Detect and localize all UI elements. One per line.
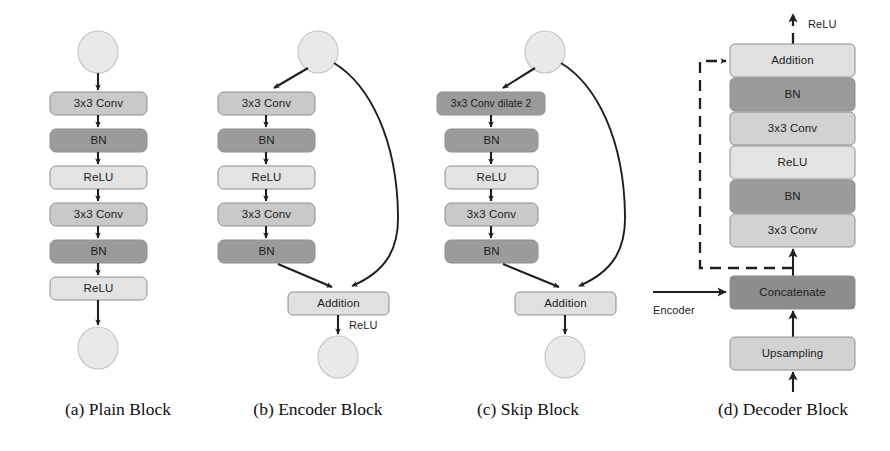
- encoder-node-bn1-label: BN: [258, 134, 274, 146]
- decoder-node-relu-label: ReLU: [778, 156, 808, 168]
- plain-output-circle: [78, 327, 118, 369]
- skip-node-conv2-label: 3x3 Conv: [467, 208, 517, 220]
- encoder-node-conv1-label: 3x3 Conv: [242, 97, 292, 109]
- decoder-encoder-input-label: Encoder: [653, 304, 695, 316]
- skip-node-bn2-label: BN: [483, 245, 499, 257]
- plain-node-bn1-label: BN: [90, 134, 106, 146]
- block-diagram-figure: 3x3 Conv BN ReLU 3x3 Conv BN ReLU (a) Pl…: [0, 0, 890, 451]
- encoder-output-circle: [318, 336, 358, 378]
- caption-plain-block: (a) Plain Block: [65, 399, 171, 419]
- skip-input-circle: [525, 31, 565, 73]
- plain-node-relu1-label: ReLU: [84, 171, 114, 183]
- decoder-output-relu-label: ReLU: [808, 18, 837, 30]
- skip-node-addition-label: Addition: [544, 297, 586, 309]
- decoder-node-bn2-label: BN: [784, 190, 800, 202]
- plain-node-bn2-label: BN: [90, 245, 106, 257]
- encoder-node-addition-label: Addition: [317, 297, 359, 309]
- encoder-node-conv2-label: 3x3 Conv: [242, 208, 292, 220]
- skip-node-dilated-conv-label: 3x3 Conv dilate 2: [451, 98, 532, 109]
- caption-skip-block: (c) Skip Block: [477, 399, 579, 419]
- decoder-node-upsampling-label: Upsampling: [762, 347, 824, 359]
- encoder-node-bn2-label: BN: [258, 245, 274, 257]
- decoder-node-conv2-label: 3x3 Conv: [768, 224, 818, 236]
- skip-node-bn1-label: BN: [483, 134, 499, 146]
- encoder-input-circle: [298, 31, 338, 73]
- encoder-output-relu-label: ReLU: [349, 319, 378, 331]
- decoder-node-addition-label: Addition: [771, 54, 813, 66]
- plain-node-conv1-label: 3x3 Conv: [74, 97, 124, 109]
- plain-node-conv2-label: 3x3 Conv: [74, 208, 124, 220]
- plain-node-relu2-label: ReLU: [84, 282, 114, 294]
- decoder-node-bn1-label: BN: [784, 88, 800, 100]
- decoder-node-concatenate-label: Concatenate: [759, 286, 825, 298]
- plain-input-circle: [78, 31, 118, 73]
- diagram-canvas: 3x3 Conv BN ReLU 3x3 Conv BN ReLU (a) Pl…: [0, 0, 890, 451]
- caption-encoder-block: (b) Encoder Block: [253, 399, 383, 419]
- decoder-node-conv1-label: 3x3 Conv: [768, 122, 818, 134]
- skip-output-circle: [545, 336, 585, 378]
- skip-node-relu1-label: ReLU: [477, 171, 507, 183]
- caption-decoder-block: (d) Decoder Block: [718, 399, 848, 419]
- encoder-node-relu1-label: ReLU: [252, 171, 282, 183]
